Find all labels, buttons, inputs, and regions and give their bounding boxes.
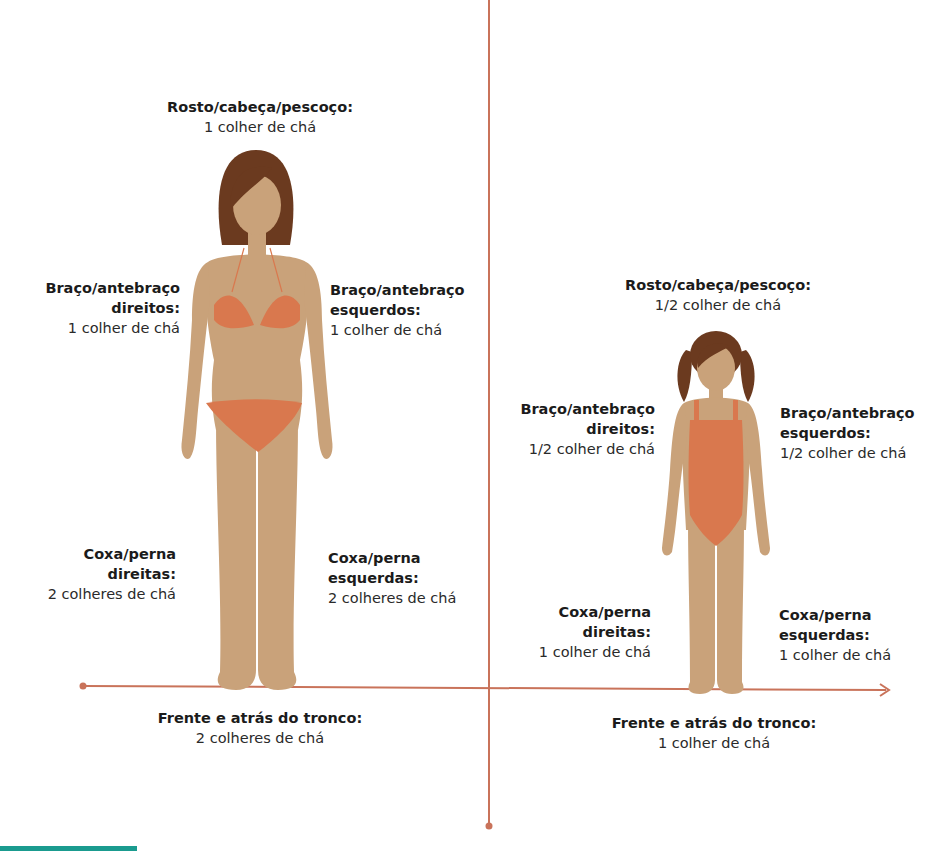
- label-title: Frente e atrás do tronco:: [564, 713, 864, 733]
- label-title-line2: direitas:: [0, 564, 176, 584]
- label-value: 1 colher de chá: [779, 645, 944, 665]
- child-trunk-label: Frente e atrás do tronco: 1 colher de ch…: [564, 713, 864, 753]
- label-title: Frente e atrás do tronco:: [110, 708, 410, 728]
- label-value: 1 colher de chá: [480, 642, 651, 662]
- label-title: Rosto/cabeça/pescoço:: [568, 275, 868, 295]
- child-right-arm-label: Braço/antebraço direitos: 1/2 colher de …: [480, 399, 655, 459]
- adult-left-arm-label: Braço/antebraço esquerdos: 1 colher de c…: [330, 280, 510, 340]
- child-head-label: Rosto/cabeça/pescoço: 1/2 colher de chá: [568, 275, 868, 315]
- label-title-line1: Coxa/perna: [0, 544, 176, 564]
- label-title-line1: Braço/antebraço: [0, 278, 180, 298]
- label-value: 1 colher de chá: [564, 733, 864, 753]
- label-title-line2: esquerdas:: [779, 625, 944, 645]
- label-value: 1 colher de chá: [330, 320, 510, 340]
- adult-right-arm-label: Braço/antebraço direitos: 1 colher de ch…: [0, 278, 180, 338]
- label-value: 1 colher de chá: [110, 117, 410, 137]
- label-title-line1: Braço/antebraço: [780, 403, 945, 423]
- adult-right-leg-label: Coxa/perna direitas: 2 colheres de chá: [0, 544, 176, 604]
- label-title-line1: Coxa/perna: [779, 605, 944, 625]
- vertical-axis-end-dot: [486, 823, 493, 830]
- label-title-line2: direitos:: [0, 298, 180, 318]
- label-title-line1: Braço/antebraço: [480, 399, 655, 419]
- adult-figure: [181, 150, 332, 690]
- label-title-line1: Coxa/perna: [328, 548, 508, 568]
- horizontal-axis-line: [83, 686, 886, 690]
- child-right-leg-label: Coxa/perna direitas: 1 colher de chá: [480, 602, 651, 662]
- label-title-line2: direitos:: [480, 419, 655, 439]
- label-title-line2: esquerdos:: [330, 300, 510, 320]
- label-title-line1: Braço/antebraço: [330, 280, 510, 300]
- label-value: 1/2 colher de chá: [780, 443, 945, 463]
- label-title-line2: direitas:: [480, 622, 651, 642]
- label-title: Rosto/cabeça/pescoço:: [110, 97, 410, 117]
- adult-head-label: Rosto/cabeça/pescoço: 1 colher de chá: [110, 97, 410, 137]
- adult-left-leg-label: Coxa/perna esquerdas: 2 colheres de chá: [328, 548, 508, 608]
- horizontal-axis-start-dot: [80, 683, 87, 690]
- child-left-leg-label: Coxa/perna esquerdas: 1 colher de chá: [779, 605, 944, 665]
- child-figure: [662, 331, 770, 694]
- label-value: 1 colher de chá: [0, 318, 180, 338]
- label-title-line2: esquerdas:: [328, 568, 508, 588]
- label-value: 2 colheres de chá: [110, 728, 410, 748]
- label-title-line1: Coxa/perna: [480, 602, 651, 622]
- child-left-arm-label: Braço/antebraço esquerdos: 1/2 colher de…: [780, 403, 945, 463]
- label-value: 1/2 colher de chá: [568, 295, 868, 315]
- label-title-line2: esquerdos:: [780, 423, 945, 443]
- teal-accent-bar: [0, 846, 137, 851]
- adult-trunk-label: Frente e atrás do tronco: 2 colheres de …: [110, 708, 410, 748]
- label-value: 1/2 colher de chá: [480, 439, 655, 459]
- label-value: 2 colheres de chá: [0, 584, 176, 604]
